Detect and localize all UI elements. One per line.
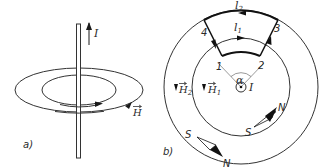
angle-label: α (236, 74, 244, 87)
current-label-b: I (248, 81, 254, 94)
h1-direction-arrow-icon (202, 84, 206, 91)
compass-inner-south-label: S (245, 127, 252, 138)
h2-direction-arrow-icon (174, 84, 178, 91)
panel-a: I H a) (15, 23, 143, 158)
point-1-label: 1 (216, 61, 222, 72)
l1-label: l1 (234, 21, 242, 35)
conductor-wire (77, 24, 81, 158)
l2-label: l2 (235, 0, 244, 13)
point-3-label: 3 (274, 23, 280, 34)
outer-field-arrow-icon (125, 102, 132, 109)
current-label: I (93, 27, 99, 40)
current-out-of-page-icon (240, 86, 243, 89)
magnetic-field-diagram: I H a) α l2 l1 1 2 3 4 I (0, 0, 319, 168)
point-4-label: 4 (201, 27, 207, 38)
compass-outer-south-label: S (185, 129, 192, 140)
panel-b: α l2 l1 1 2 3 4 I H2 H1 (163, 0, 318, 168)
panel-a-caption: a) (23, 139, 33, 150)
panel-b-caption: b) (163, 146, 173, 157)
h1-label: H1 (207, 84, 221, 97)
compass-inner-north-label: N (278, 102, 286, 113)
radial-segment-4-1 (204, 20, 222, 56)
point-2-label: 2 (258, 60, 264, 71)
h2-label: H2 (178, 84, 193, 97)
compass-needle-outer (197, 137, 223, 157)
compass-outer-north-label: N (223, 158, 231, 168)
integration-path-l1 (222, 52, 260, 56)
field-label: H (132, 107, 142, 118)
l1-direction-arrow-icon (237, 36, 245, 41)
